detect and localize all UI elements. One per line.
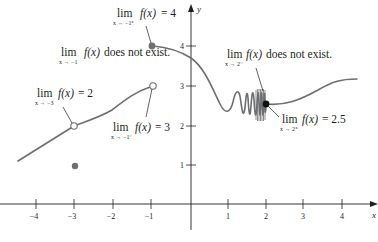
- x-tick-label: −1: [145, 212, 154, 221]
- x-tick-label: −3: [68, 212, 77, 221]
- svg-text:does not exist.: does not exist.: [266, 48, 332, 60]
- leader-lines: [63, 26, 279, 123]
- svg-text:f(x): f(x): [246, 48, 262, 61]
- y-tick-label: 1: [180, 161, 184, 170]
- svg-text:does not exist.: does not exist.: [104, 46, 170, 58]
- svg-text:f(x): f(x): [84, 46, 100, 59]
- x-tick-label: 4: [340, 212, 344, 221]
- annotation-lim-neg1-minus: lim x → −1⁻ f(x) = 3: [111, 121, 170, 140]
- x-tick-label: −4: [30, 212, 39, 221]
- curve-piece-4: [266, 79, 357, 104]
- svg-text:f(x): f(x): [58, 87, 74, 100]
- svg-text:lim: lim: [227, 48, 242, 60]
- open-point-x-neg1: [150, 83, 156, 89]
- y-tick-label: 3: [180, 82, 184, 91]
- x-tick-label: 1: [226, 212, 230, 221]
- annotation-lim-2-plus: lim x → 2⁺ f(x) = 2.5: [280, 113, 346, 132]
- filled-point-x-neg3: [72, 163, 78, 169]
- annotation-lim-neg1-plus: lim x → −1⁺ f(x) = 4: [113, 7, 176, 26]
- svg-text:= 2.5: = 2.5: [322, 113, 346, 125]
- x-tick-label: 3: [301, 212, 305, 221]
- svg-text:= 2: = 2: [78, 87, 93, 99]
- svg-text:lim: lim: [113, 121, 128, 133]
- x-axis-arrow-icon: [370, 201, 378, 207]
- svg-text:x → −1⁺: x → −1⁺: [113, 20, 134, 26]
- y-tick-label: 2: [180, 122, 184, 131]
- open-point-x-neg3: [71, 123, 77, 129]
- svg-text:= 4: = 4: [161, 7, 176, 19]
- svg-text:x → 2⁺: x → 2⁺: [280, 126, 298, 132]
- x-axis-label: x: [371, 210, 376, 220]
- y-tick-label: 4: [180, 42, 184, 51]
- svg-text:x → −1⁻: x → −1⁻: [111, 134, 132, 140]
- svg-text:f(x): f(x): [135, 121, 151, 134]
- svg-text:lim: lim: [117, 7, 132, 19]
- annotation-lim-2-minus: lim x → 2⁻ f(x) does not exist.: [225, 48, 332, 67]
- svg-text:lim: lim: [61, 46, 76, 58]
- annotation-lim-neg3: lim x → −3 f(x) = 2: [35, 87, 93, 106]
- y-axis-label: y: [196, 4, 201, 14]
- x-tick-labels: −4 −3 −2 −1 1 2 3 4: [30, 212, 344, 221]
- svg-text:x → −3: x → −3: [35, 100, 53, 106]
- svg-text:f(x): f(x): [302, 113, 318, 126]
- svg-text:x → 2⁻: x → 2⁻: [225, 61, 243, 67]
- annotation-lim-neg1: lim x → −1 f(x) does not exist.: [59, 46, 170, 65]
- limit-graph: y x −4 −3 −2 −1 1 2 3 4 1 2 3 4: [0, 0, 378, 242]
- y-tick-labels: 1 2 3 4: [180, 42, 184, 170]
- x-tick-label: 2: [264, 212, 268, 221]
- svg-text:f(x): f(x): [140, 7, 156, 20]
- svg-text:x → −1: x → −1: [59, 59, 77, 65]
- x-tick-label: −2: [107, 212, 116, 221]
- svg-text:lim: lim: [37, 87, 52, 99]
- svg-text:= 3: = 3: [155, 121, 170, 133]
- curve-piece-1: [18, 126, 74, 161]
- svg-text:lim: lim: [282, 113, 297, 125]
- y-axis-arrow-icon: [188, 4, 194, 12]
